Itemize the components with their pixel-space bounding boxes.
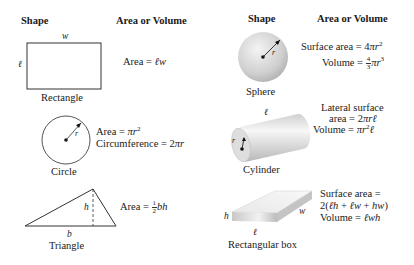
sphere-name: Sphere bbox=[246, 86, 275, 97]
sphere-label-r: r bbox=[272, 48, 275, 57]
box-name: Rectangular box bbox=[228, 239, 297, 250]
cylinder-label-r: r bbox=[232, 136, 235, 145]
box-label-h: h bbox=[224, 211, 229, 221]
triangle-label-b: b bbox=[67, 229, 72, 239]
circle-shape bbox=[42, 116, 90, 164]
rectangle-shape bbox=[27, 43, 101, 89]
circle-formula-area: Area = πr2 bbox=[96, 126, 140, 137]
box-formula-surface-2: 2(ℓh + ℓw + hw) bbox=[320, 200, 388, 211]
rectangle-formula: Area = ℓw bbox=[123, 56, 166, 67]
sphere-shape bbox=[238, 32, 288, 82]
right-header-shape: Shape bbox=[248, 13, 275, 24]
circle-name: Circle bbox=[51, 166, 77, 177]
triangle-label-h: h bbox=[84, 202, 89, 212]
box-formula-volume: Volume = ℓwh bbox=[320, 212, 380, 223]
right-header-formula: Area or Volume bbox=[317, 13, 388, 24]
circle-formula-circumference: Circumference = 2πr bbox=[96, 138, 184, 149]
circle-label-r: r bbox=[75, 129, 78, 138]
triangle-formula: Area = 12bh bbox=[120, 200, 168, 215]
cylinder-formula-volume: Volume = πr2ℓ bbox=[313, 124, 374, 135]
box-formula-surface-1: Surface area = bbox=[320, 188, 381, 199]
triangle-name: Triangle bbox=[49, 240, 84, 251]
box-label-w: w bbox=[299, 206, 305, 216]
sphere-formula-surface: Surface area = 4πr2 bbox=[301, 41, 382, 52]
sphere-formula-volume: Volume = 43πr3 bbox=[322, 56, 384, 71]
rectangle-label-w: w bbox=[62, 31, 68, 41]
left-header-formula: Area or Volume bbox=[116, 15, 187, 26]
rectangle-name: Rectangle bbox=[41, 92, 83, 103]
cylinder-label-l: ℓ bbox=[264, 107, 268, 117]
box-label-l: ℓ bbox=[253, 227, 257, 237]
cylinder-shape bbox=[229, 114, 311, 164]
cylinder-formula-lateral-1: Lateral surface bbox=[321, 102, 384, 113]
left-header-shape: Shape bbox=[21, 15, 48, 26]
cylinder-name: Cylinder bbox=[243, 164, 280, 175]
rectangle-label-l: ℓ bbox=[18, 59, 22, 69]
triangle-shape bbox=[25, 189, 116, 226]
